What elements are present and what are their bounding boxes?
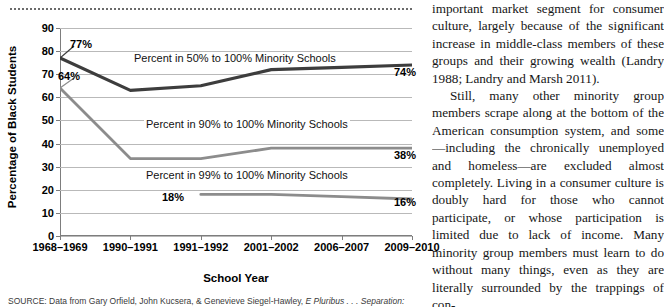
y-tick-label: 30 [42,161,54,172]
plot-area: 0102030405060708090 1968–19691990–199119… [60,28,412,236]
source-text: Data from Gary Orfield, John Kucsera, & … [49,296,303,306]
value-label-74: 74% [394,66,416,78]
y-tick-label: 0 [48,231,54,242]
body-text-column: important market segment for consumer cu… [432,0,664,307]
x-tick-mark [342,236,343,240]
y-tick-label: 90 [42,23,54,34]
y-tick-label: 10 [42,207,54,218]
dotted-divider [10,8,412,10]
x-axis-title: School Year [60,272,412,284]
value-label-38: 38% [394,149,416,161]
line-chart: Percentage of Black Students 01020304050… [0,18,420,236]
x-tick-label: 2006–2007 [314,242,369,253]
x-tick-mark [130,236,131,240]
source-prefix: SOURCE: [8,296,47,306]
y-tick-label: 50 [42,115,54,126]
page-root: Percentage of Black Students 01020304050… [0,0,664,307]
x-tick-mark [201,236,202,240]
value-label-77: 77% [70,38,92,50]
series-line-2 [201,194,412,199]
figure-column: Percentage of Black Students 01020304050… [0,0,420,307]
y-tick-label: 80 [42,46,54,57]
paragraph-2: Still, many other minority group members… [432,87,664,307]
y-tick-label: 40 [42,138,54,149]
x-tick-label: 1968–1969 [32,242,87,253]
figure-source: SOURCE: Data from Gary Orfield, John Kuc… [8,296,420,306]
value-label-16: 16% [394,196,416,208]
y-tick-label: 70 [42,69,54,80]
x-tick-mark [412,236,413,240]
value-label-18: 18% [162,191,184,203]
x-tick-label: 1991–1992 [173,242,228,253]
source-title: E Pluribus . . . Separation: [306,296,405,306]
x-tick-label: 1990–1991 [103,242,158,253]
gridline [60,236,412,237]
paragraph-1: important market segment for consumer cu… [432,0,664,87]
value-label-64: 64% [58,70,80,82]
x-tick-mark [60,236,61,240]
series-label-90-100: Percent in 90% to 100% Minority Schools [144,118,350,130]
x-tick-label: 2001–2002 [244,242,299,253]
y-tick-label: 60 [42,92,54,103]
series-label-50-100: Percent in 50% to 100% Minority Schools [132,52,338,64]
y-axis-title: Percentage of Black Students [6,27,18,227]
series-label-99-100: Percent in 99% to 100% Minority Schools [144,169,350,181]
x-tick-mark [271,236,272,240]
y-tick-label: 20 [42,184,54,195]
